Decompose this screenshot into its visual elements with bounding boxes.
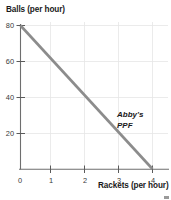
x-axis-title: Rackets (per hour) [98, 181, 169, 191]
ppf-series-annotation: Abby's PPF [117, 110, 143, 131]
ppf-chart-figure: Balls (per hour) [0, 0, 171, 200]
y-tick-label-80: 80 [1, 22, 14, 30]
ppf-annotation-line2: PPF [117, 121, 143, 132]
y-tick-label-60: 60 [1, 58, 14, 66]
plot-area [0, 0, 171, 200]
x-tick-label-1: 1 [45, 177, 57, 185]
y-tick-label-40: 40 [1, 94, 14, 102]
horizontal-gridlines [20, 26, 168, 134]
y-tick-label-20: 20 [1, 130, 14, 138]
x-tick-label-0: 0 [14, 177, 26, 185]
ppf-annotation-line1: Abby's [117, 110, 143, 121]
vertical-gridlines [51, 22, 153, 169]
corner-mark [164, 196, 169, 199]
x-tick-label-2: 2 [79, 177, 91, 185]
